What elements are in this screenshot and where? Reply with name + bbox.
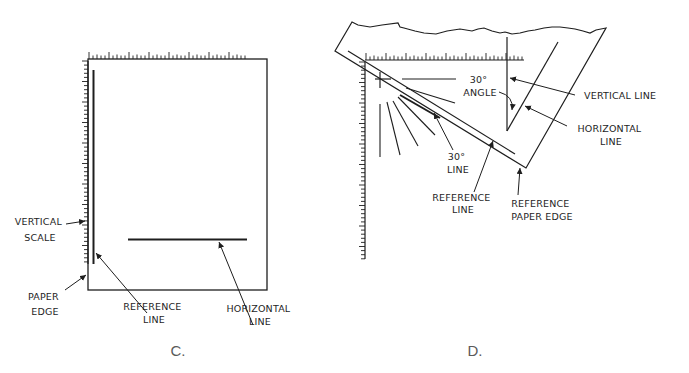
fan-line: [393, 101, 418, 146]
vertical-scale: [359, 62, 365, 259]
label-horizontal-line: HORIZONTAL LINE: [577, 123, 644, 147]
thirty-degree-line: [400, 95, 440, 118]
fan-line: [406, 88, 455, 103]
label-reference-paper-edge: REFERENCE PAPER EDGE: [511, 198, 573, 222]
vertical-line-arrow: [510, 78, 575, 95]
vertical-scale-arrow: [66, 221, 85, 224]
label-paper-edge: PAPER EDGE: [28, 291, 62, 317]
top-scale: [89, 52, 245, 59]
paper-edge-arrow: [65, 275, 86, 290]
drafting-figure: VERTICAL SCALE PAPER EDGE REFERENCE LINE…: [0, 0, 689, 373]
angle-arc-arrow: [499, 92, 512, 110]
label-vertical-line: VERTICAL LINE: [584, 90, 656, 101]
label-horizontal-line: HORIZONTAL LINE: [226, 303, 293, 327]
label-thirty-angle: 30° ANGLE: [463, 74, 496, 98]
panel-c: VERTICAL SCALE PAPER EDGE REFERENCE LINE…: [15, 52, 294, 359]
thirty-line-arrow: [434, 113, 453, 150]
panel-d: 30° ANGLE VERTICAL LINE HORIZONTAL LINE …: [335, 22, 656, 359]
reference-line: [348, 51, 515, 154]
paper-sheet: [88, 59, 267, 290]
caption-d: D.: [468, 342, 483, 359]
top-scale: [365, 53, 524, 60]
reference-line-arrow: [474, 141, 493, 192]
horizontal-line-arrow: [525, 106, 567, 126]
label-reference-line: REFERENCE LINE: [432, 192, 493, 215]
fan-line: [398, 97, 435, 135]
reference-paper-edge-arrow: [518, 168, 520, 195]
label-reference-line: REFERENCE LINE: [123, 301, 184, 325]
caption-c: C.: [171, 342, 186, 359]
label-vertical-scale: VERTICAL SCALE: [15, 216, 65, 243]
label-thirty-line: 30° LINE: [447, 151, 469, 175]
vertical-scale: [82, 61, 88, 264]
